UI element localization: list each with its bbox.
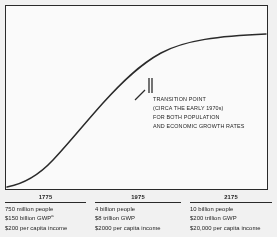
transition-point-annotation: TRANSITION POINT (CIRCA THE EARLY 1970s)… <box>153 95 277 131</box>
column-gwp-text: $200 trillion GWP <box>190 215 237 221</box>
column-year-label: 1975 <box>95 193 181 202</box>
column-population: 750 million people <box>5 205 86 215</box>
column-gwp: $8 trillion GWP <box>95 214 181 224</box>
column-income: $20,000 per capita income <box>190 224 272 234</box>
column-population: 10 billion people <box>190 205 272 215</box>
annotation-line-1: TRANSITION POINT <box>153 95 277 104</box>
annotation-line-4: AND ECONOMIC GROWTH RATES <box>153 122 277 131</box>
column-income: $2000 per capita income <box>95 224 181 234</box>
column-gwp: $150 billion GWPa <box>5 214 86 224</box>
column-gwp: $200 trillion GWP <box>190 214 272 224</box>
column-population: 4 billion people <box>95 205 181 215</box>
data-column-1775: 1775 750 million people $150 billion GWP… <box>5 193 86 233</box>
data-column-2175: 2175 10 billion people $200 trillion GWP… <box>190 193 272 233</box>
figure-screenshot: TRANSITION POINT (CIRCA THE EARLY 1970s)… <box>0 0 277 237</box>
column-gwp-footnote: a <box>51 213 53 218</box>
column-rule <box>95 202 181 203</box>
column-income: $200 per capita income <box>5 224 86 234</box>
data-column-1975: 1975 4 billion people $8 trillion GWP $2… <box>95 193 181 233</box>
transition-point-marker <box>135 78 152 100</box>
column-rule <box>5 202 86 203</box>
annotation-line-2: (CIRCA THE EARLY 1970s) <box>153 104 277 113</box>
column-year-label: 2175 <box>190 193 272 202</box>
column-rule <box>190 202 272 203</box>
annotation-line-3: FOR BOTH POPULATION <box>153 113 277 122</box>
column-gwp-text: $150 billion GWP <box>5 215 51 221</box>
column-gwp-text: $8 trillion GWP <box>95 215 135 221</box>
data-columns: 1775 750 million people $150 billion GWP… <box>0 193 277 237</box>
column-year-label: 1775 <box>5 193 86 202</box>
